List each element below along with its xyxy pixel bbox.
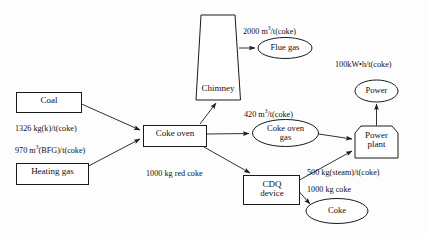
flow-label-cog-post: /t(coke) [267,110,292,119]
flow-label-power-plant-to-power: 100kW•h/t(coke) [335,60,392,69]
flow-label-heating-gas-to-oven: 970 m3(BFG)/t(coke) [15,146,85,155]
flow-label-flue-gas-pre: 2000 m [243,27,268,36]
edge-coke-oven-to-coke-oven-gas [207,134,250,135]
flow-label-cog-pre: 420 m [244,110,265,119]
edge-coke-oven-to-chimney [200,103,216,124]
node-chimney [196,15,241,100]
edge-coke-oven-gas-to-power-plant [319,134,353,139]
edge-coal-to-coke-oven [82,104,141,130]
flow-label-oven-to-coke-oven-gas: 420 m3/t(coke) [244,110,293,119]
flow-label-chimney-to-flue-gas: 2000 m3/t(coke) [243,27,296,36]
flow-label-cdq-to-coke: 1000 kg coke [307,185,351,194]
node-heating-gas [17,164,89,185]
node-coke-oven-gas [253,120,319,147]
edge-heating-gas-to-coke-oven [89,139,141,166]
node-coke [306,199,368,224]
diagram-canvas [0,0,429,234]
node-coal [17,93,82,113]
node-cdq-device [244,176,300,205]
node-power [355,80,398,102]
edge-coke-oven-to-cdq-device [204,147,250,173]
flow-label-heating-gas-post: (BFG)/t(coke) [38,146,85,155]
node-power-plant [355,126,398,158]
flow-label-cdq-to-power-plant: 500 kg(steam)/t(coke) [307,168,380,177]
flow-label-coal-to-oven: 1326 kg(k)/t(coke) [15,124,77,133]
flow-label-flue-gas-post: /t(coke) [271,27,296,36]
flow-label-heating-gas-pre: 970 m [15,146,36,155]
process-flow-diagram: Coal Heating gas Coke oven Chimney CDQ d… [0,0,429,234]
node-flue-gas [258,38,312,59]
flow-label-oven-to-cdq: 1000 kg red coke [146,169,203,178]
node-coke-oven [144,126,207,147]
